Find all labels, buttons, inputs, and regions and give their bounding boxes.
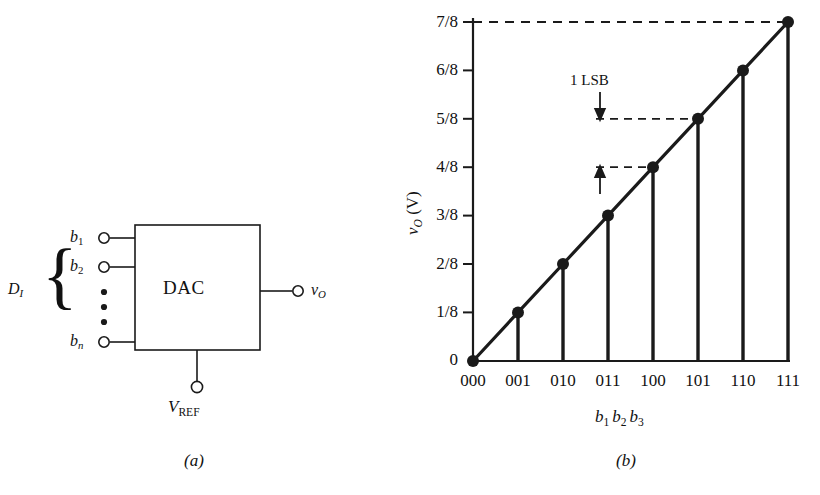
data-point: [737, 64, 749, 76]
lsb-arrow-down: [595, 92, 605, 120]
y-tick-label: 4/8: [418, 158, 458, 175]
panel-b-chart-graphics: [0, 0, 820, 495]
y-tick-label: 1/8: [418, 303, 458, 320]
y-tick-label: 2/8: [418, 255, 458, 272]
data-point: [557, 258, 569, 270]
data-point: [692, 113, 704, 125]
y-tick-label: 0: [418, 351, 458, 368]
y-tick-label: 6/8: [418, 61, 458, 78]
figure-root: { DI b1 b2 bn DAC vO VREF (a): [0, 0, 820, 495]
lsb-arrow-up: [595, 166, 605, 194]
data-point: [602, 210, 614, 222]
x-tick-label: 111: [758, 372, 818, 389]
data-point: [782, 16, 794, 28]
data-point: [467, 355, 479, 367]
data-point: [512, 306, 524, 318]
y-tick-label: 5/8: [418, 110, 458, 127]
y-tick-label: 7/8: [418, 13, 458, 30]
lsb-annotation-label: 1 LSB: [570, 73, 609, 88]
panel-b-caption: (b): [616, 452, 636, 469]
y-axis-ticks: [463, 22, 473, 312]
y-axis-title: vO (V): [404, 191, 424, 235]
x-axis-title: b1b2b3: [595, 408, 644, 428]
data-point: [647, 161, 659, 173]
